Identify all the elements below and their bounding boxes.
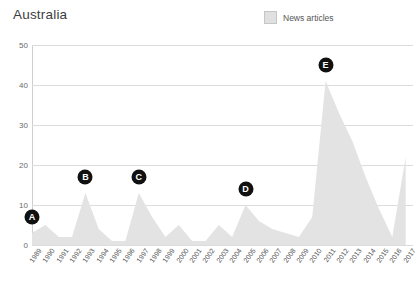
x-axis-tick-label: 2007	[268, 247, 283, 264]
annotation-marker-c[interactable]: C	[131, 170, 146, 185]
page-title: Australia	[13, 7, 67, 22]
area-path-news-articles	[32, 81, 406, 245]
x-axis-tick-label: 1999	[162, 247, 177, 264]
x-axis-tick-label: 2015	[375, 247, 390, 264]
x-axis-tick-label: 2001	[188, 247, 203, 264]
x-axis-tick-label: 2017	[402, 247, 417, 264]
chart-legend: News articles	[264, 11, 334, 24]
x-axis-tick-label: 1998	[148, 247, 163, 264]
chart-container: Australia News articles 01020304050ABCDE…	[0, 0, 417, 283]
x-axis-tick-label: 2000	[175, 247, 190, 264]
x-axis-tick-label: 1996	[121, 247, 136, 264]
y-axis-tick-label: 40	[0, 81, 28, 90]
x-axis-tick-label: 2009	[295, 247, 310, 264]
x-axis-tick-label: 2004	[228, 247, 243, 264]
x-axis-tick-label: 2005	[242, 247, 257, 264]
x-axis-tick-label: 2011	[322, 247, 336, 263]
x-axis-tick-label: 1993	[81, 247, 96, 264]
x-axis-tick-label: 1990	[41, 247, 56, 264]
x-axis-tick-label: 1989	[28, 247, 43, 264]
legend-label-news-articles: News articles	[283, 13, 334, 23]
annotation-marker-e[interactable]: E	[318, 58, 333, 73]
x-axis-tick-label: 1992	[68, 247, 83, 264]
x-axis-labels: 1989199019911992199319941995199619971998…	[32, 247, 413, 283]
area-series-svg	[32, 45, 413, 245]
x-axis-tick-label: 2014	[362, 247, 377, 264]
x-axis-tick-label: 1997	[135, 247, 150, 264]
x-axis-tick-label: 2016	[388, 247, 403, 264]
x-axis-tick-label: 1995	[108, 247, 123, 264]
y-axis-tick-label: 10	[0, 201, 28, 210]
x-axis-tick-label: 2012	[335, 247, 350, 264]
y-axis-tick-label: 50	[0, 41, 28, 50]
annotation-marker-d[interactable]: D	[238, 182, 253, 197]
x-axis-tick-label: 2013	[348, 247, 363, 264]
x-axis-tick-label: 2006	[255, 247, 270, 264]
y-axis-tick-label: 0	[0, 241, 28, 250]
x-axis-tick-label: 1994	[95, 247, 110, 264]
x-axis-tick-label: 2008	[282, 247, 297, 264]
x-axis-tick-label: 2003	[215, 247, 230, 264]
annotation-marker-b[interactable]: B	[78, 170, 93, 185]
annotation-marker-a[interactable]: A	[25, 210, 40, 225]
x-axis-tick-label: 2002	[202, 247, 217, 264]
y-axis-tick-label: 30	[0, 121, 28, 130]
x-axis-tick-label: 1991	[55, 247, 70, 264]
legend-swatch-news-articles	[264, 11, 277, 24]
x-axis-tick-label: 2010	[308, 247, 323, 264]
plot-area: 01020304050ABCDE	[32, 45, 413, 245]
y-axis-tick-label: 20	[0, 161, 28, 170]
